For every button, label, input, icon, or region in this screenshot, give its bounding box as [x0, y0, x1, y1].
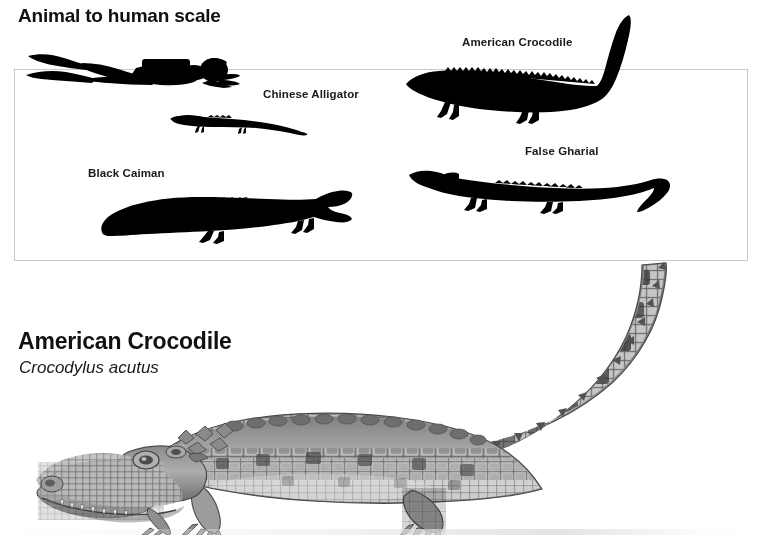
chinese-alligator-silhouette-icon	[168, 110, 308, 142]
chinese-alligator-label: Chinese Alligator	[263, 88, 359, 100]
american-crocodile-illustration	[20, 262, 758, 535]
false-gharial-label: False Gharial	[525, 145, 599, 157]
american-crocodile-silhouette-icon	[403, 14, 653, 128]
page-bottom-edge	[0, 529, 758, 535]
false-gharial-silhouette-icon	[405, 166, 673, 218]
page-title: Animal to human scale	[18, 5, 221, 27]
animal-to-human-scale-panel: Animal to human scale	[0, 0, 758, 270]
diver-silhouette-icon	[26, 44, 240, 90]
black-caiman-label: Black Caiman	[88, 167, 165, 179]
featured-species-section: American Crocodile Crocodylus acutus	[0, 262, 758, 535]
black-caiman-silhouette-icon	[98, 186, 354, 244]
